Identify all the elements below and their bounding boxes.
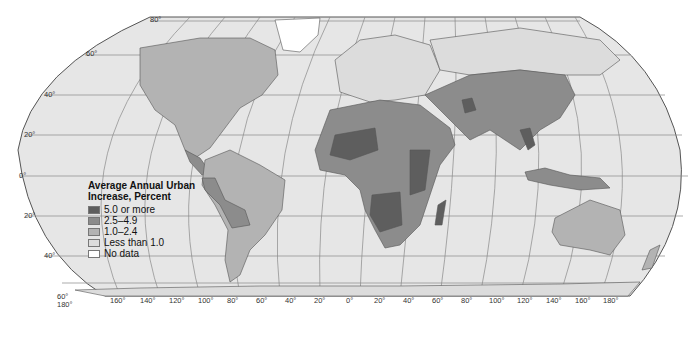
legend-item: 1.0–2.4	[88, 226, 195, 237]
svg-text:40°: 40°	[285, 296, 296, 305]
legend-swatch	[88, 239, 100, 247]
svg-text:160°: 160°	[575, 296, 591, 305]
legend-label: 1.0–2.4	[104, 227, 137, 237]
legend-label: 5.0 or more	[104, 205, 155, 215]
svg-text:160°: 160°	[110, 296, 126, 305]
legend-title-line1: Average Annual Urban	[88, 180, 195, 191]
svg-text:140°: 140°	[546, 296, 562, 305]
longitude-labels: 180° 160° 140° 120° 100° 80° 60° 40° 20°…	[57, 296, 619, 309]
svg-text:0°: 0°	[346, 296, 353, 305]
legend-item: No data	[88, 248, 195, 259]
map-legend: Average Annual Urban Increase, Percent 5…	[88, 180, 195, 259]
svg-text:20°: 20°	[374, 296, 385, 305]
svg-text:40°: 40°	[44, 90, 55, 99]
svg-text:60°: 60°	[432, 296, 443, 305]
svg-text:20°: 20°	[314, 296, 325, 305]
svg-text:20°: 20°	[24, 211, 35, 220]
svg-text:60°: 60°	[86, 49, 97, 58]
legend-item: 2.5–4.9	[88, 215, 195, 226]
legend-swatch	[88, 206, 100, 214]
world-map: 80° 60° 40° 20° 0° 20° 40° 60° 180° 160°…	[0, 0, 698, 345]
svg-text:120°: 120°	[517, 296, 533, 305]
svg-text:60°: 60°	[256, 296, 267, 305]
legend-title: Average Annual Urban Increase, Percent	[88, 180, 195, 202]
legend-item: Less than 1.0	[88, 237, 195, 248]
svg-text:0°: 0°	[19, 171, 26, 180]
svg-text:20°: 20°	[24, 130, 35, 139]
legend-label: Less than 1.0	[104, 238, 164, 248]
svg-text:100°: 100°	[489, 296, 505, 305]
legend-swatch	[88, 217, 100, 225]
svg-text:80°: 80°	[461, 296, 472, 305]
svg-text:120°: 120°	[169, 296, 185, 305]
legend-swatch	[88, 228, 100, 236]
svg-text:180°: 180°	[603, 296, 619, 305]
legend-swatch	[88, 250, 100, 258]
legend-label: No data	[104, 249, 139, 259]
svg-text:80°: 80°	[150, 15, 161, 24]
svg-text:80°: 80°	[227, 296, 238, 305]
svg-text:40°: 40°	[44, 251, 55, 260]
svg-text:40°: 40°	[403, 296, 414, 305]
svg-text:180°: 180°	[57, 300, 73, 309]
legend-label: 2.5–4.9	[104, 216, 137, 226]
svg-text:100°: 100°	[198, 296, 214, 305]
legend-item: 5.0 or more	[88, 204, 195, 215]
svg-text:140°: 140°	[140, 296, 156, 305]
legend-title-line2: Increase, Percent	[88, 191, 195, 202]
